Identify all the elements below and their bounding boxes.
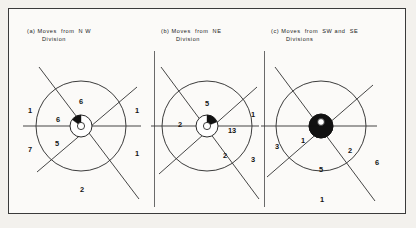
panel-a-inner-bottom: 2 [80, 185, 84, 194]
panel-b-inner-top: 5 [205, 99, 209, 108]
panel-a: (a) Moves from N W Division 6 6 5 2 [9, 9, 155, 213]
panel-c: (c) Moves from SW and SE Divisions 1 5 2… [265, 9, 407, 213]
panel-c-inner-right: 2 [348, 146, 352, 155]
figure-frame: (a) Moves from N W Division 6 6 5 2 [8, 8, 406, 214]
panel-b-outer-lower-right: 3 [251, 155, 255, 164]
panel-a-outer-lower-left: 7 [28, 145, 32, 154]
panel-c-diagram [265, 9, 407, 215]
panel-a-outer-lower-right: 1 [135, 149, 139, 158]
hub-core [203, 122, 210, 129]
panel-c-outer-bottom: 1 [320, 195, 324, 204]
panel-a-outer-upper-right: 1 [135, 106, 139, 115]
panel-a-outer-upper-left: 1 [28, 106, 32, 115]
hub-filled-lower-half [309, 126, 333, 138]
panel-b-outer-upper-right: 1 [251, 110, 255, 119]
panel-c-outer-right: 6 [375, 158, 379, 167]
panel-a-inner-lower-left: 5 [55, 139, 59, 148]
panel-b: (b) Moves from NE Division 5 2 13 2 1 3 [155, 9, 265, 213]
figure-canvas: (a) Moves from N W Division 6 6 5 2 [0, 0, 416, 228]
hub-core [318, 119, 325, 126]
panel-b-inner-right: 13 [228, 126, 236, 135]
panel-a-inner-top: 6 [79, 97, 83, 106]
panel-b-inner-left: 2 [178, 120, 182, 129]
panel-c-inner-left: 1 [301, 136, 305, 145]
panel-a-inner-upper-left: 6 [56, 115, 60, 124]
panel-c-outer-left: 3 [275, 142, 279, 151]
panel-c-inner-bottom: 5 [319, 165, 323, 174]
panel-b-inner-lower-right: 2 [223, 151, 227, 160]
panel-b-diagram [155, 9, 265, 215]
hub-core [77, 122, 84, 129]
